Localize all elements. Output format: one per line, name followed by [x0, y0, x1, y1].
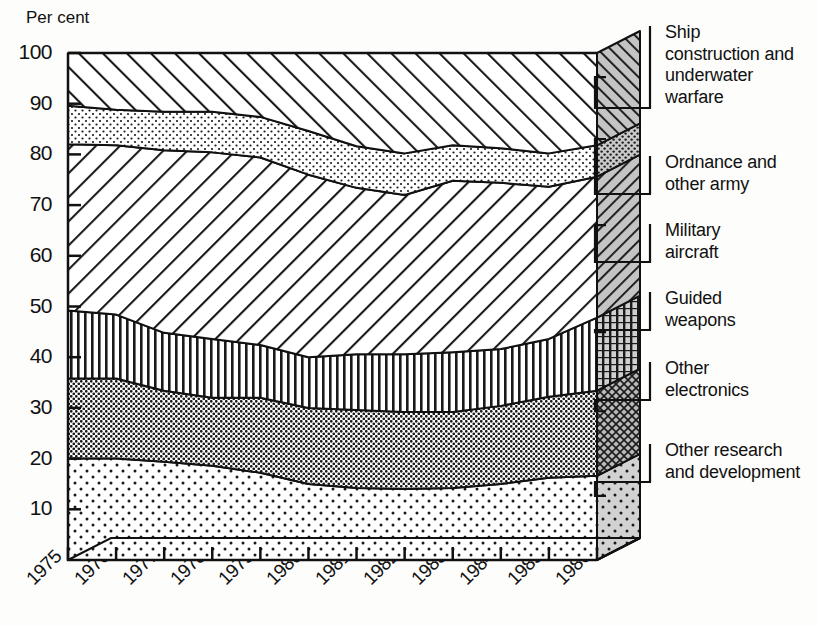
chart-root: Per cent 102030405060708090100 197519761… — [0, 0, 818, 626]
stacked-area-plot — [0, 0, 818, 626]
area-bands — [68, 53, 597, 560]
area-band-side-military-aircraft — [597, 155, 640, 318]
